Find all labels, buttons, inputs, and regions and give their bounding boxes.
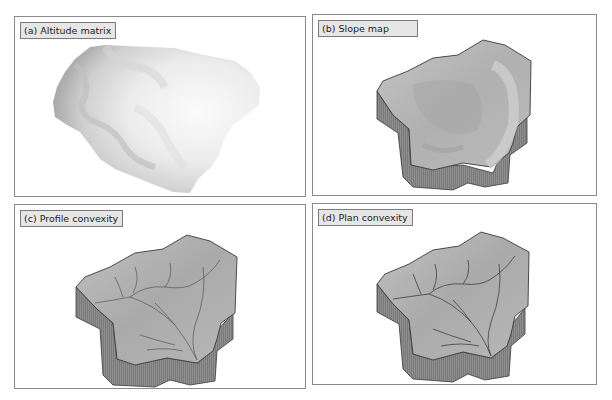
slope-block-diagram (313, 15, 598, 197)
panel-slope-map: (b) Slope map (312, 14, 597, 196)
altitude-raster-image (15, 17, 307, 198)
panel-profile-convexity: (c) Profile convexity (14, 204, 306, 389)
plan-convexity-block-diagram (313, 204, 598, 386)
profile-convexity-block-diagram (15, 205, 307, 390)
panel-altitude-matrix: (a) Altitude matrix (14, 16, 306, 197)
panel-plan-convexity: (d) Plan convexity (312, 203, 597, 385)
